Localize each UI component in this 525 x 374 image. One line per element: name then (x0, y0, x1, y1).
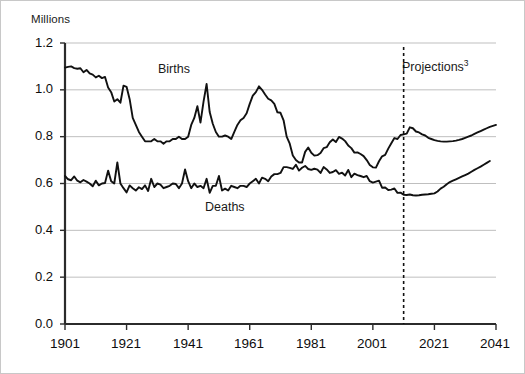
series-line-deaths (65, 161, 490, 195)
series-line-births (65, 66, 496, 167)
gridlines-group (65, 43, 496, 277)
chart-plot-area (1, 1, 525, 374)
data-series-group (65, 66, 496, 195)
chart-figure: Millions 1.2 1.0 0.8 0.6 0.4 0.2 0.0 190… (0, 0, 525, 374)
